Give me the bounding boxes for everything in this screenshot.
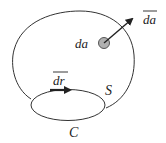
label-dr: dr (53, 73, 66, 88)
label-c: C (69, 125, 79, 140)
label-s: S (105, 83, 112, 98)
boundary-curve-c (31, 90, 105, 121)
label-da: da (75, 36, 89, 51)
diagram-canvas: da da dr S C (0, 0, 166, 143)
area-normal-arrow (104, 19, 132, 43)
label-da-vector: da (143, 12, 157, 27)
surface-s-outline (13, 11, 135, 108)
